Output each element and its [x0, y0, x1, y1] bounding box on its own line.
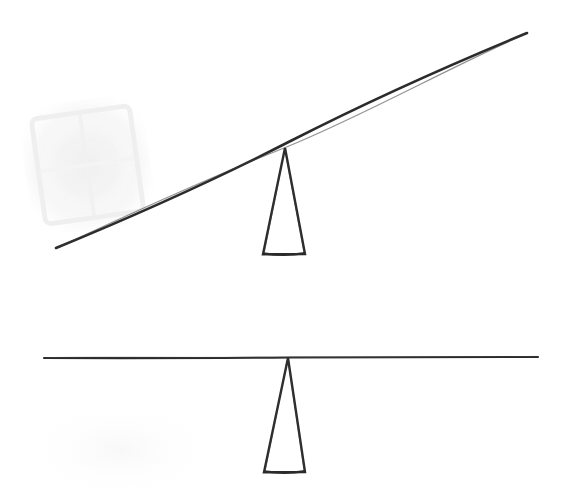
lever-diagram-svg — [0, 0, 563, 499]
diagram-canvas — [0, 0, 563, 499]
scan-ghost-window-icon — [17, 92, 159, 238]
scan-ghost-lower-icon — [38, 408, 202, 492]
